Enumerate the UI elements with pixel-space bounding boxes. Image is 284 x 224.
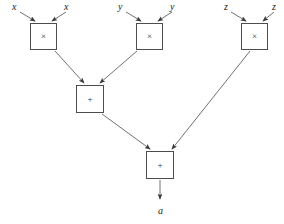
- input-label-z-right: z: [272, 2, 276, 12]
- edge-mul_x-to-add_mid: [55, 51, 84, 83]
- computation-graph-diagram: × × × + + x x y y z z a: [0, 0, 284, 224]
- node-multiply-y[interactable]: ×: [136, 23, 163, 50]
- node-multiply-z[interactable]: ×: [241, 23, 268, 50]
- edge-add_mid-to-add_out: [102, 114, 150, 149]
- edge-z_right-to-mul_z: [263, 12, 274, 21]
- node-add-output-label: +: [157, 161, 162, 170]
- input-label-y-right: y: [170, 2, 174, 12]
- edge-mul_y-to-add_mid: [100, 51, 137, 83]
- edge-mul_z-to-add_out: [172, 51, 250, 149]
- edge-x_left-to-mul_x: [20, 12, 35, 21]
- edge-x_right-to-mul_x: [52, 12, 66, 21]
- input-label-x-left: x: [12, 2, 16, 12]
- edge-z_left-to-mul_z: [231, 12, 246, 21]
- node-add-output[interactable]: +: [146, 151, 174, 179]
- edge-y_left-to-mul_y: [126, 12, 141, 21]
- node-multiply-x-label: ×: [41, 32, 46, 41]
- node-add-middle-label: +: [87, 95, 92, 104]
- node-multiply-z-label: ×: [252, 32, 257, 41]
- edge-y_right-to-mul_y: [158, 12, 172, 21]
- input-label-y-left: y: [118, 2, 122, 12]
- node-multiply-x[interactable]: ×: [30, 23, 57, 50]
- input-label-z-left: z: [224, 2, 228, 12]
- output-label-a: a: [158, 206, 163, 216]
- input-label-x-right: x: [64, 2, 68, 12]
- node-multiply-y-label: ×: [147, 32, 152, 41]
- node-add-middle[interactable]: +: [76, 85, 104, 113]
